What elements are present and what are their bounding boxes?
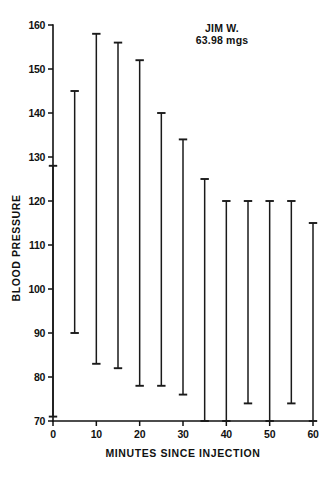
range-bar	[114, 43, 122, 369]
range-bar	[157, 113, 165, 386]
y-tick-label: 110	[29, 239, 45, 251]
subject-name-annotation: JIM W.	[205, 22, 239, 34]
y-tick-label: 120	[28, 195, 45, 207]
dose-annotation: 63.98 mgs	[196, 34, 249, 46]
y-tick-label: 160	[28, 19, 45, 31]
blood-pressure-chart: 708090100110120130140150160 010203040506…	[0, 0, 334, 479]
y-tick-label: 130	[28, 151, 45, 163]
range-bar	[244, 201, 252, 403]
x-tick-label: 40	[221, 428, 233, 440]
range-bar	[222, 201, 230, 421]
range-bar	[179, 139, 187, 394]
range-bar	[287, 201, 295, 403]
y-tick-label: 80	[34, 371, 46, 383]
range-bar	[200, 179, 208, 421]
range-bar	[92, 34, 100, 364]
x-tick-label: 20	[134, 428, 146, 440]
range-bar	[309, 223, 317, 421]
range-bar	[70, 91, 78, 333]
y-tick-label: 100	[28, 283, 45, 295]
y-tick-label: 150	[28, 63, 45, 75]
x-tick-label: 30	[177, 428, 189, 440]
y-axis-ticks: 708090100110120130140150160	[28, 19, 53, 427]
x-axis-ticks: 0102030405060	[50, 421, 319, 440]
y-tick-label: 90	[34, 327, 46, 339]
x-tick-label: 0	[50, 428, 56, 440]
x-tick-label: 50	[264, 428, 276, 440]
x-tick-label: 60	[307, 428, 319, 440]
chart-svg: 708090100110120130140150160 010203040506…	[0, 0, 334, 479]
range-bar	[265, 201, 273, 421]
data-bars-group	[49, 34, 317, 421]
y-axis-title: BLOOD PRESSURE	[10, 195, 22, 302]
range-bar	[135, 60, 143, 386]
y-tick-label: 140	[28, 107, 45, 119]
x-tick-label: 10	[91, 428, 103, 440]
range-bar	[49, 166, 57, 417]
x-axis-title: MINUTES SINCE INJECTION	[106, 447, 261, 459]
y-tick-label: 70	[34, 415, 46, 427]
